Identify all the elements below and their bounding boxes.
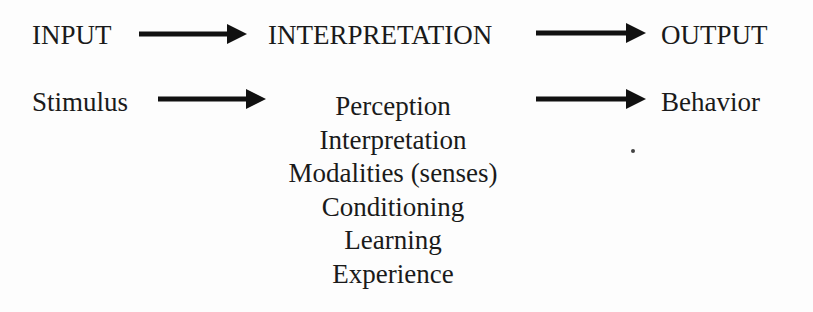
label-input: INPUT (32, 22, 112, 49)
arrow-right-icon (536, 23, 646, 43)
speck (631, 149, 635, 153)
list-item: Learning (243, 224, 543, 258)
interpretation-list: Perception Interpretation Modalities (se… (243, 90, 543, 291)
arrow-right-icon (536, 89, 646, 109)
list-item: Experience (243, 258, 543, 292)
list-item: Interpretation (243, 124, 543, 158)
list-item: Modalities (senses) (243, 157, 543, 191)
label-output: OUTPUT (661, 22, 768, 49)
list-item: Perception (243, 90, 543, 124)
label-stimulus: Stimulus (32, 89, 128, 116)
label-interpretation: INTERPRETATION (268, 22, 492, 49)
arrow-right-icon (139, 24, 247, 44)
label-behavior: Behavior (661, 89, 760, 116)
list-item: Conditioning (243, 191, 543, 225)
